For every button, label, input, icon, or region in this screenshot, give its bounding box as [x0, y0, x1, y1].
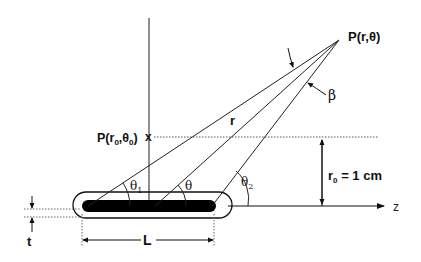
- p0-marker: x: [145, 130, 152, 144]
- beta-pointer-upper: [288, 48, 293, 67]
- z-axis-label: z: [393, 200, 399, 214]
- theta1-label: θ1: [130, 179, 142, 195]
- radius-label: r: [230, 113, 235, 128]
- thickness-label: t: [27, 234, 32, 249]
- active-rod: [82, 200, 216, 212]
- source-geometry-diagram: P(r,θ) P(r0,θ0) x r β θ1 θ θ2 r0 = 1 cm …: [0, 0, 421, 262]
- r0-value-label: r0 = 1 cm: [328, 168, 382, 185]
- ray-to-left-end: [88, 40, 339, 206]
- length-label: L: [143, 232, 152, 248]
- theta2-label: θ2: [241, 175, 253, 191]
- beta-label: β: [328, 87, 336, 103]
- theta-label: θ: [185, 179, 192, 193]
- point-p0-label: P(r0,θ0): [97, 131, 138, 147]
- point-p-label: P(r,θ): [348, 29, 380, 44]
- beta-pointer-lower: [308, 83, 326, 95]
